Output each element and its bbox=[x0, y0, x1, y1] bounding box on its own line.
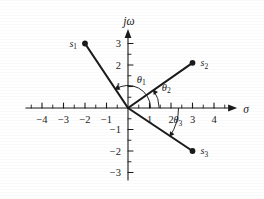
s-plane-plot: −4−3−2−11234−3−2−1123σjωθ1θ2θ3s1s2s3 bbox=[0, 0, 264, 199]
pole-dot-s2[interactable] bbox=[190, 60, 196, 66]
jomega-axis-arrowhead bbox=[125, 29, 132, 38]
vector-s1 bbox=[85, 44, 128, 109]
sigma-axis-arrowhead bbox=[228, 105, 237, 112]
sigma-axis-label: σ bbox=[243, 103, 250, 115]
sigma-tick-label: −2 bbox=[79, 114, 90, 125]
sigma-tick-label: 4 bbox=[211, 114, 217, 125]
pole-dot-s3[interactable] bbox=[190, 148, 196, 154]
jomega-tick-label: −3 bbox=[110, 167, 121, 178]
sigma-tick-label: −4 bbox=[36, 114, 48, 125]
figure-canvas: −4−3−2−11234−3−2−1123σjωθ1θ2θ3s1s2s3 bbox=[0, 0, 264, 199]
pole-label-s1: s1 bbox=[69, 38, 77, 52]
sigma-tick-label: −3 bbox=[58, 114, 69, 125]
sigma-tick-label: 3 bbox=[190, 114, 195, 125]
pole-label-s3: s3 bbox=[201, 145, 209, 159]
theta2-label: θ2 bbox=[162, 82, 171, 96]
pole-label-s2: s2 bbox=[201, 57, 209, 71]
jomega-tick-label: −1 bbox=[110, 124, 121, 135]
vector-s2 bbox=[128, 63, 193, 108]
jomega-axis-label: jω bbox=[121, 15, 134, 28]
theta1-label: θ1 bbox=[137, 74, 146, 88]
jomega-tick-label: 2 bbox=[116, 60, 121, 71]
vector-s3 bbox=[128, 108, 193, 151]
jomega-tick-label: 3 bbox=[116, 38, 121, 49]
jomega-tick-label: −2 bbox=[110, 146, 121, 157]
pole-dot-s1[interactable] bbox=[82, 41, 88, 47]
